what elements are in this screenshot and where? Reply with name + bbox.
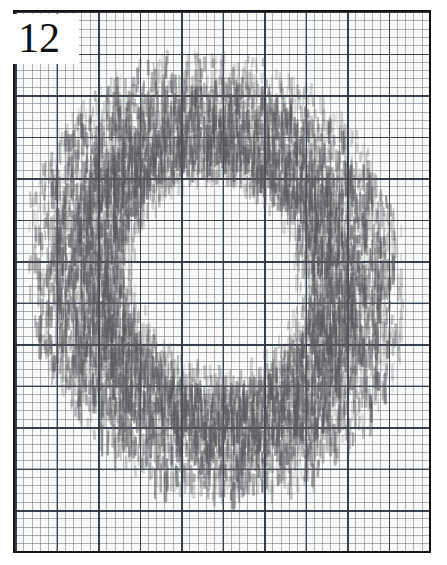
hatch-group <box>29 51 402 508</box>
plate-number-label: 12 <box>11 14 79 64</box>
scanned-page: 12 <box>0 0 447 565</box>
graph-grid-major <box>15 12 429 551</box>
plate-number-text: 12 <box>11 17 60 62</box>
plate-frame <box>13 10 431 553</box>
hatch-stroke-canvas <box>15 12 429 551</box>
scan-vignette <box>15 12 429 551</box>
graph-grid-minor <box>15 12 429 551</box>
hatched-annulus-drawing <box>15 12 429 551</box>
paper-grain-texture <box>15 12 429 551</box>
